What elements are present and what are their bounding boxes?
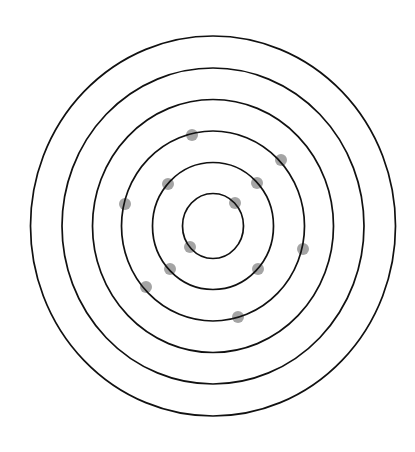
rings-group	[31, 36, 396, 416]
ring-5	[62, 68, 364, 384]
concentric-rings-diagram	[0, 0, 415, 452]
point-marker-8	[275, 154, 287, 166]
dots-group	[119, 129, 309, 323]
ring-2	[153, 163, 274, 290]
ring-6	[31, 36, 396, 416]
ring-1	[183, 194, 244, 259]
ring-4	[93, 100, 334, 353]
